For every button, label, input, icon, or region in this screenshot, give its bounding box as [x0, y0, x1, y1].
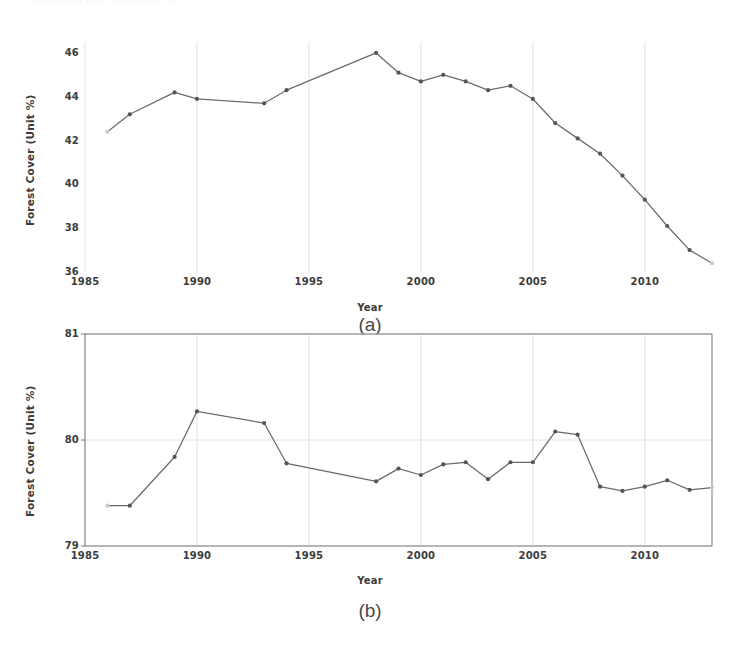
data-point-marker [508, 84, 512, 88]
data-point-marker [262, 421, 266, 425]
data-point-marker [464, 460, 468, 464]
figure-b: Forest Cover (Unit %) Year (b) 798081198… [0, 322, 740, 647]
data-point-marker [128, 504, 132, 508]
chart-a-svg [0, 14, 740, 294]
data-point-marker [374, 479, 378, 483]
chart-b-x-axis-label: Year [305, 575, 435, 586]
x-tick-label: 2010 [620, 550, 670, 561]
x-tick-label: 2005 [508, 550, 558, 561]
x-tick-label: 1995 [284, 550, 334, 561]
data-point-marker [508, 460, 512, 464]
chart-a-x-axis-label: Year [305, 302, 435, 313]
data-point-marker [688, 488, 692, 492]
data-point-marker [553, 121, 557, 125]
x-tick-label: 1990 [172, 550, 222, 561]
y-tick-label: 46 [51, 47, 79, 58]
chart-b-y-axis-label: Forest Cover (Unit %) [24, 386, 36, 518]
data-point-marker [441, 462, 445, 466]
y-tick-label: 44 [51, 91, 79, 102]
data-series-line [107, 53, 712, 263]
data-point-marker [576, 433, 580, 437]
x-tick-label: 1995 [284, 276, 334, 287]
x-tick-label: 1985 [60, 550, 110, 561]
y-tick-label: 38 [51, 222, 79, 233]
data-point-marker [396, 71, 400, 75]
x-tick-label: 2010 [620, 276, 670, 287]
chart-b-canvas [0, 322, 740, 572]
data-point-marker [598, 485, 602, 489]
data-point-marker [643, 485, 647, 489]
chart-a-canvas [0, 14, 740, 294]
y-tick-label: 40 [51, 178, 79, 189]
data-point-marker [441, 73, 445, 77]
y-tick-label: 42 [51, 135, 79, 146]
data-point-marker [643, 198, 647, 202]
data-point-marker [710, 261, 714, 265]
data-point-marker [172, 90, 176, 94]
data-point-marker [553, 429, 557, 433]
data-point-marker [128, 112, 132, 116]
data-point-marker [105, 504, 109, 508]
data-point-marker [576, 136, 580, 140]
data-point-marker [531, 97, 535, 101]
data-point-marker [396, 467, 400, 471]
x-tick-label: 1985 [60, 276, 110, 287]
data-point-marker [105, 130, 109, 134]
x-tick-label: 1990 [172, 276, 222, 287]
scan-bleed-text: ........... .. ...... ............. ... [0, 0, 740, 12]
data-point-marker [195, 97, 199, 101]
data-point-marker [710, 486, 714, 490]
data-point-marker [172, 455, 176, 459]
data-point-marker [688, 248, 692, 252]
data-point-marker [665, 224, 669, 228]
data-point-marker [374, 51, 378, 55]
data-point-marker [419, 79, 423, 83]
data-point-marker [620, 174, 624, 178]
chart-b-caption: (b) [0, 600, 740, 622]
data-point-marker [195, 409, 199, 413]
y-tick-label: 80 [51, 434, 79, 445]
y-tick-label: 81 [51, 328, 79, 339]
chart-b-svg [0, 322, 740, 572]
data-point-marker [464, 79, 468, 83]
data-point-marker [284, 461, 288, 465]
x-tick-label: 2000 [396, 276, 446, 287]
data-point-marker [531, 460, 535, 464]
data-point-marker [620, 489, 624, 493]
figure-a: Forest Cover (Unit %) Year (a) 363840424… [0, 14, 740, 324]
data-point-marker [262, 101, 266, 105]
data-point-marker [665, 478, 669, 482]
chart-a-y-axis-label: Forest Cover (Unit %) [24, 95, 36, 227]
data-point-marker [486, 88, 490, 92]
x-tick-label: 2000 [396, 550, 446, 561]
data-point-marker [419, 473, 423, 477]
data-point-marker [486, 477, 490, 481]
data-point-marker [284, 88, 288, 92]
data-point-marker [598, 152, 602, 156]
x-tick-label: 2005 [508, 276, 558, 287]
